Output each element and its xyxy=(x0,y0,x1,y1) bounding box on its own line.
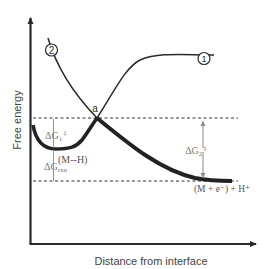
y-axis-label: Free energy xyxy=(11,90,23,150)
curve-1-thin xyxy=(97,54,214,118)
x-axis-label: Distance from interface xyxy=(94,255,207,267)
dG1-label: ΔG1‡ xyxy=(45,129,67,143)
products-state-label: (M + e⁻) + H⁺ xyxy=(194,184,250,195)
curve-1-label: 1 xyxy=(198,53,210,65)
adsorbed-state-label: (M--H) xyxy=(58,154,87,166)
svg-text:1: 1 xyxy=(201,54,206,64)
diagram-canvas: 2 1 a ΔG1‡ ΔGrxn (M--H) ΔG2‡ (M + e⁻) + … xyxy=(0,0,276,269)
curve-2-bold xyxy=(97,118,232,181)
svg-text:2: 2 xyxy=(49,45,55,56)
free-energy-diagram: 2 1 a ΔG1‡ ΔGrxn (M--H) ΔG2‡ (M + e⁻) + … xyxy=(0,0,276,269)
curve-2-label: 2 xyxy=(46,44,58,56)
intersection-label: a xyxy=(92,103,98,114)
dG2-label: ΔG2‡ xyxy=(185,144,207,158)
